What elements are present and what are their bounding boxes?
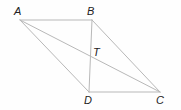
vertex-label-b: B <box>87 6 94 17</box>
parallelogram-diagram: A B T D C <box>0 0 181 110</box>
intersection-label-t: T <box>93 47 100 58</box>
vertex-label-a: A <box>14 6 21 17</box>
vertex-label-c: C <box>156 95 164 106</box>
segment-bc <box>92 20 160 92</box>
segment-da <box>20 20 89 92</box>
vertex-label-d: D <box>84 95 92 106</box>
